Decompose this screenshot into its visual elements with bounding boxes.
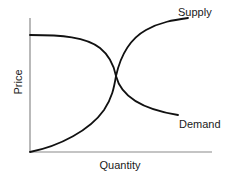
supply-label: Supply xyxy=(178,6,212,18)
supply-curve xyxy=(30,18,188,152)
demand-label: Demand xyxy=(179,118,221,130)
demand-curve xyxy=(30,35,178,115)
supply-demand-chart: Supply Demand Quantity Price xyxy=(0,0,226,178)
x-axis-label: Quantity xyxy=(100,159,141,171)
y-axis-label: Price xyxy=(12,69,24,94)
